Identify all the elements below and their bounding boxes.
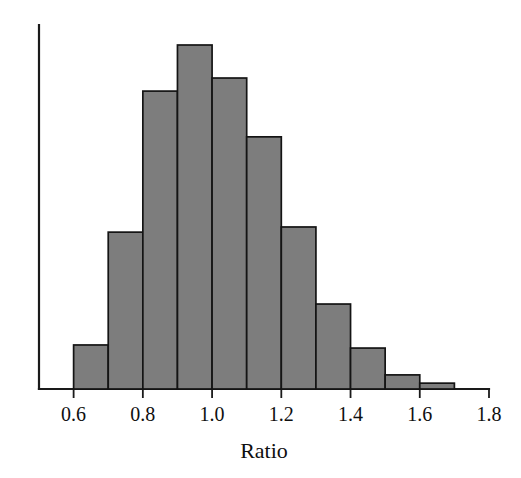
x-axis-tick-labels: 0.60.81.01.21.41.61.8 [61,403,501,425]
x-axis-tick-label: 1.4 [338,403,363,425]
histogram-bar [420,383,455,389]
histogram-bar [177,45,212,389]
x-axis-ticks [74,389,489,398]
histogram-bar [74,345,109,389]
x-axis-tick-label: 0.8 [130,403,155,425]
x-axis-tick-label: 1.8 [477,403,502,425]
x-axis-title: Ratio [240,438,288,463]
x-axis-tick-label: 1.2 [269,403,294,425]
histogram-bar [351,348,386,389]
x-axis-tick-label: 0.6 [61,403,86,425]
histogram-bar [143,91,178,389]
histogram-bar [247,137,282,389]
x-axis-tick-label: 1.6 [407,403,432,425]
plot-area: 0.60.81.01.21.41.61.8 Ratio [0,0,521,478]
histogram-chart: 0.60.81.01.21.41.61.8 Ratio [0,0,521,478]
histogram-figure: 0.60.81.01.21.41.61.8 Ratio [0,0,521,478]
histogram-bar [108,232,143,389]
histogram-bar [212,78,247,389]
histogram-bar [281,227,316,389]
histogram-bars [74,45,455,389]
x-axis-tick-label: 1.0 [200,403,225,425]
histogram-bar [385,375,420,389]
histogram-bar [316,304,351,389]
